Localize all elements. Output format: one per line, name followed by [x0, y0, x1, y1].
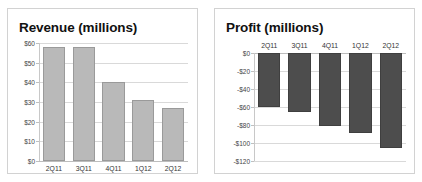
- revenue-plot-area: $60$50$40$30$20$10$02Q113Q114Q111Q122Q12: [39, 43, 188, 161]
- bar-3Q11[interactable]: [73, 47, 95, 161]
- x-axis-label-1Q12: 1Q12: [345, 42, 375, 49]
- x-axis-label-4Q11: 4Q11: [315, 42, 345, 49]
- bar-2Q12[interactable]: [162, 108, 184, 161]
- y-axis-tick-label: $50: [24, 59, 35, 66]
- y-axis-line: [254, 53, 255, 161]
- x-axis-label-2Q11: 2Q11: [39, 165, 69, 172]
- gridline: [39, 43, 188, 44]
- y-axis-tick-mark: [36, 161, 39, 162]
- y-axis-tick-label: -$100: [233, 140, 250, 147]
- y-axis-line: [39, 43, 40, 161]
- bar-2Q11[interactable]: [258, 53, 280, 107]
- bar-4Q11[interactable]: [319, 53, 341, 126]
- revenue-chart-title: Revenue (millions): [19, 20, 137, 35]
- y-axis-tick-label: -$120: [233, 158, 250, 165]
- y-axis-tick-label: $20: [24, 118, 35, 125]
- y-axis-tick-label: -$20: [237, 68, 250, 75]
- y-axis-tick-mark: [251, 161, 254, 162]
- bar-2Q12[interactable]: [380, 53, 402, 148]
- profit-chart-panel: Profit (millions) $0-$20-$40-$60-$80-$10…: [214, 8, 415, 174]
- x-axis-label-4Q11: 4Q11: [99, 165, 129, 172]
- x-axis-label-2Q12: 2Q12: [376, 42, 406, 49]
- y-axis-tick-label: $40: [24, 79, 35, 86]
- y-axis-tick-label: $0: [243, 50, 250, 57]
- x-axis-label-1Q12: 1Q12: [128, 165, 158, 172]
- bar-2Q11[interactable]: [43, 47, 65, 161]
- y-axis-tick-label: -$40: [237, 86, 250, 93]
- x-axis-label-3Q11: 3Q11: [69, 165, 99, 172]
- two-chart-figure: Revenue (millions) $60$50$40$30$20$10$02…: [0, 0, 422, 182]
- profit-plot-area: $0-$20-$40-$60-$80-$100-$1202Q113Q114Q11…: [254, 53, 406, 161]
- gridline: [254, 161, 406, 162]
- bar-3Q11[interactable]: [288, 53, 310, 112]
- y-axis-tick-label: $10: [24, 138, 35, 145]
- y-axis-tick-label: -$60: [237, 104, 250, 111]
- x-axis-label-2Q11: 2Q11: [254, 42, 284, 49]
- y-axis-tick-label: $0: [28, 158, 35, 165]
- y-axis-tick-label: $60: [24, 40, 35, 47]
- x-axis-label-2Q12: 2Q12: [158, 165, 188, 172]
- y-axis-tick-label: $30: [24, 99, 35, 106]
- bar-1Q12[interactable]: [132, 100, 154, 161]
- bar-4Q11[interactable]: [102, 82, 124, 161]
- gridline: [39, 161, 188, 162]
- revenue-chart-panel: Revenue (millions) $60$50$40$30$20$10$02…: [7, 8, 198, 174]
- bar-1Q12[interactable]: [349, 53, 371, 133]
- x-axis-label-3Q11: 3Q11: [284, 42, 314, 49]
- y-axis-tick-label: -$80: [237, 122, 250, 129]
- profit-chart-title: Profit (millions): [226, 20, 323, 35]
